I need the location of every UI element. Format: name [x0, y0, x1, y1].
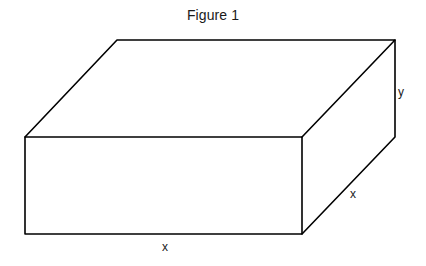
dimension-label-height-y: y [398, 86, 404, 98]
front-face [25, 137, 302, 234]
box-diagram [0, 0, 426, 266]
figure-canvas: Figure 1 y x x [0, 0, 426, 266]
dimension-label-depth-x: x [350, 188, 356, 200]
dimension-label-width-x: x [162, 241, 168, 253]
